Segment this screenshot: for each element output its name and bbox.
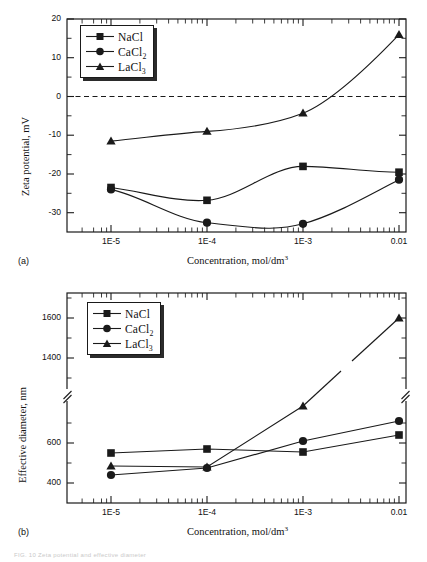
- panel-a-zeta-potential: NaCl CaCl2 LaCl3 20 10 0 -10 -20 -30 1E-…: [0, 0, 427, 278]
- panel-label-a: (a): [18, 256, 29, 266]
- xtick-label-a-2: 1E-3: [273, 236, 333, 246]
- legend-marker-square-icon: [92, 308, 122, 319]
- axis-break-right-icon: [402, 389, 410, 403]
- legend-label-nacl-a: NaCl: [118, 31, 143, 43]
- legend-row-lacl3-a: LaCl3: [85, 59, 147, 74]
- panel-b-effective-diameter: NaCl CaCl2 LaCl3 1600 1400 600 400 1E-5 …: [0, 278, 427, 562]
- ytick-label-a-5: -30: [25, 207, 61, 217]
- series-markers-cacl2-a: [107, 176, 403, 228]
- xtick-label-a-3: 0.01: [369, 236, 427, 246]
- x-axis-title-a: Concentration, mol/dm3: [24, 255, 427, 266]
- y-axis-title-a: Zeta potential, mV: [20, 117, 31, 196]
- legend-label-nacl-b: NaCl: [125, 308, 150, 320]
- x-axis-title-b: Concentration, mol/dm3: [24, 526, 427, 537]
- series-line-cacl2-a: [111, 180, 399, 229]
- ytick-label-a-1: 10: [25, 52, 61, 62]
- legend-row-nacl-a: NaCl: [85, 29, 147, 44]
- legend-marker-triangle-icon: [85, 61, 115, 72]
- legend-label-lacl3-b: LaCl3: [125, 338, 153, 350]
- figure-caption: FIG. 10 Zeta potential and effective dia…: [14, 552, 146, 558]
- y-axis-title-b: Effective diameter, nm: [17, 387, 28, 483]
- ytick-label-a-2: 0: [25, 91, 61, 101]
- xtick-label-a-1: 1E-4: [177, 236, 237, 246]
- series-line-nacl-b: [111, 435, 399, 453]
- series-line-nacl-a: [111, 166, 399, 200]
- series-markers-cacl2-b: [107, 417, 403, 479]
- legend-label-cacl2-a: CaCl2: [118, 46, 147, 58]
- series-markers-nacl-a: [107, 163, 403, 205]
- series-line-lacl3-b-lower: [111, 406, 303, 467]
- legend-marker-square-icon: [85, 31, 115, 42]
- legend-row-cacl2-b: CaCl2: [92, 321, 154, 336]
- legend-panel-a: NaCl CaCl2 LaCl3: [80, 25, 154, 78]
- legend-marker-circle-icon: [85, 46, 115, 57]
- legend-marker-circle-icon: [92, 323, 122, 334]
- legend-row-cacl2-a: CaCl2: [85, 44, 147, 59]
- xtick-label-a-0: 1E-5: [81, 236, 141, 246]
- legend-row-lacl3-b: LaCl3: [92, 336, 154, 351]
- legend-label-lacl3-a: LaCl3: [118, 61, 146, 73]
- legend-row-nacl-b: NaCl: [92, 306, 154, 321]
- xtick-label-b-1: 1E-4: [177, 507, 237, 517]
- ytick-label-b-1: 1400: [21, 352, 61, 362]
- series-line-lacl3-a: [111, 35, 399, 142]
- figure-container: NaCl CaCl2 LaCl3 20 10 0 -10 -20 -30 1E-…: [0, 0, 427, 562]
- legend-label-cacl2-b: CaCl2: [125, 323, 154, 335]
- panel-b-plot: [0, 278, 427, 562]
- series-markers-nacl-b: [107, 431, 403, 457]
- ytick-label-b-0: 1600: [21, 312, 61, 322]
- panel-label-b: (b): [18, 527, 29, 537]
- ytick-label-a-0: 20: [25, 13, 61, 23]
- xtick-label-b-3: 0.01: [369, 507, 427, 517]
- axis-break-left-icon: [64, 389, 72, 403]
- legend-panel-b: NaCl CaCl2 LaCl3: [87, 302, 161, 355]
- xtick-label-b-2: 1E-3: [273, 507, 333, 517]
- xtick-label-b-0: 1E-5: [81, 507, 141, 517]
- series-line-lacl3-b-break-in: [303, 371, 341, 406]
- legend-marker-triangle-icon: [92, 338, 122, 349]
- series-line-lacl3-b-upper: [352, 318, 399, 361]
